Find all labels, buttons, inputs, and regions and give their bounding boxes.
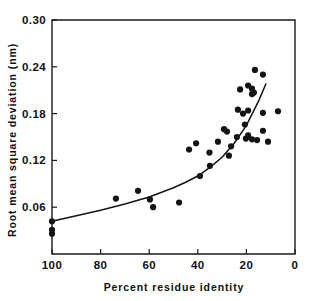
x-tick-label: 80 bbox=[94, 259, 108, 271]
data-point bbox=[224, 128, 230, 134]
x-axis-title: Percent residue identity bbox=[104, 281, 245, 293]
y-axis-title: Root mean square deviation (nm) bbox=[6, 43, 18, 237]
data-points-group bbox=[49, 67, 281, 237]
data-point bbox=[186, 146, 192, 152]
data-point bbox=[275, 108, 281, 114]
fit-curve-group bbox=[52, 84, 266, 221]
data-point bbox=[235, 107, 241, 113]
data-point bbox=[193, 140, 199, 146]
x-tick-label: 100 bbox=[42, 259, 62, 271]
y-tick-label: 0.18 bbox=[22, 108, 46, 120]
data-point bbox=[135, 188, 141, 194]
data-point bbox=[260, 128, 266, 134]
fit-curve bbox=[52, 84, 266, 221]
data-point bbox=[176, 199, 182, 205]
x-tick-label: 0 bbox=[292, 259, 299, 271]
data-point bbox=[252, 67, 258, 73]
y-tick-label: 0.24 bbox=[22, 61, 46, 73]
data-point bbox=[234, 134, 240, 140]
y-tick-label: 0.30 bbox=[22, 14, 46, 26]
scatter-chart: 100806040200 0.060.120.180.240.30 Percen… bbox=[0, 0, 314, 301]
data-point bbox=[215, 139, 221, 145]
data-point bbox=[147, 196, 153, 202]
data-point bbox=[113, 196, 119, 202]
data-point bbox=[197, 173, 203, 179]
x-tick-label: 40 bbox=[191, 259, 205, 271]
data-point bbox=[251, 89, 257, 95]
x-tick-label: 60 bbox=[142, 259, 156, 271]
y-tick-label: 0.12 bbox=[22, 154, 46, 166]
data-point bbox=[226, 153, 232, 159]
data-point bbox=[206, 150, 212, 156]
data-point bbox=[245, 107, 251, 113]
data-point bbox=[265, 139, 271, 145]
chart-axes bbox=[52, 20, 295, 254]
y-tick-label: 0.06 bbox=[22, 201, 46, 213]
data-point bbox=[254, 137, 260, 143]
data-point bbox=[150, 204, 156, 210]
x-axis-ticks: 100806040200 bbox=[42, 249, 299, 271]
data-point bbox=[237, 86, 243, 92]
data-point bbox=[242, 121, 248, 127]
x-tick-label: 20 bbox=[240, 259, 254, 271]
data-point bbox=[49, 231, 55, 237]
data-point bbox=[228, 143, 234, 149]
data-point bbox=[260, 72, 266, 78]
data-point bbox=[260, 110, 266, 116]
data-point bbox=[49, 218, 55, 224]
data-point bbox=[207, 163, 213, 169]
axis-frame bbox=[52, 20, 295, 254]
